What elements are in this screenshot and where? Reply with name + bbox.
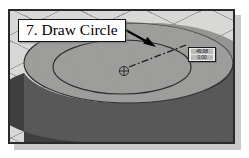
center-point-marker: [119, 66, 129, 76]
step-callout-label: 7. Draw Circle: [18, 19, 126, 42]
viewport-frame: 49.98 0.00 7. Draw Circle: [8, 9, 235, 144]
cad-tutorial-figure: 49.98 0.00 7. Draw Circle: [0, 0, 249, 158]
radius-dimension-readout[interactable]: 49.98 0.00: [188, 47, 216, 62]
dimension-value-secondary: 0.00: [191, 55, 213, 60]
cad-3d-viewport[interactable]: 49.98 0.00 7. Draw Circle: [10, 11, 233, 142]
step-callout-text: 7. Draw Circle: [26, 21, 118, 38]
